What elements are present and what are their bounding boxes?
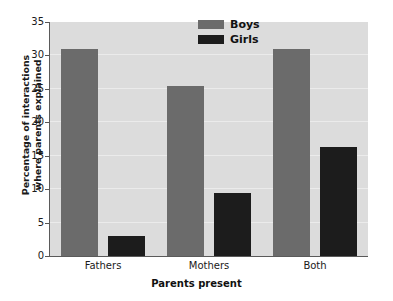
y-tick-label: 0 — [18, 251, 44, 261]
bar-girls-fathers — [108, 236, 145, 256]
y-tick-mark — [45, 256, 49, 257]
y-axis-tick-labels: 05101520253035 — [16, 0, 44, 301]
x-axis-title: Parents present — [0, 278, 393, 289]
legend: BoysGirls — [198, 18, 260, 46]
y-tick-mark — [45, 122, 49, 123]
legend-swatch-icon — [198, 35, 224, 44]
y-tick-mark — [45, 89, 49, 90]
y-tick-label: 20 — [18, 117, 44, 127]
plot-area — [50, 22, 368, 256]
x-tick-label-mothers: Mothers — [189, 260, 229, 272]
y-tick-mark — [45, 223, 49, 224]
legend-item-boys: Boys — [198, 18, 260, 31]
legend-swatch-icon — [198, 20, 224, 29]
bar-boys-mothers — [167, 86, 204, 256]
y-tick-mark — [45, 189, 49, 190]
y-tick-label: 35 — [18, 17, 44, 27]
x-tick-label-both: Both — [303, 260, 326, 272]
x-axis-line — [49, 256, 368, 257]
legend-label: Girls — [230, 34, 259, 45]
bar-boys-both — [273, 49, 310, 256]
y-tick-mark — [45, 156, 49, 157]
y-tick-label: 15 — [18, 151, 44, 161]
bar-chart: Percentage of interactions where parents… — [0, 0, 393, 301]
legend-item-girls: Girls — [198, 33, 260, 46]
y-tick-label: 10 — [18, 184, 44, 194]
bar-girls-mothers — [214, 193, 251, 256]
y-tick-label: 5 — [18, 218, 44, 228]
bar-boys-fathers — [61, 49, 98, 256]
x-tick-label-fathers: Fathers — [85, 260, 122, 272]
y-tick-mark — [45, 22, 49, 23]
y-tick-label: 30 — [18, 50, 44, 60]
y-tick-mark — [45, 55, 49, 56]
legend-label: Boys — [230, 19, 260, 30]
y-tick-label: 25 — [18, 84, 44, 94]
bar-girls-both — [320, 147, 357, 256]
